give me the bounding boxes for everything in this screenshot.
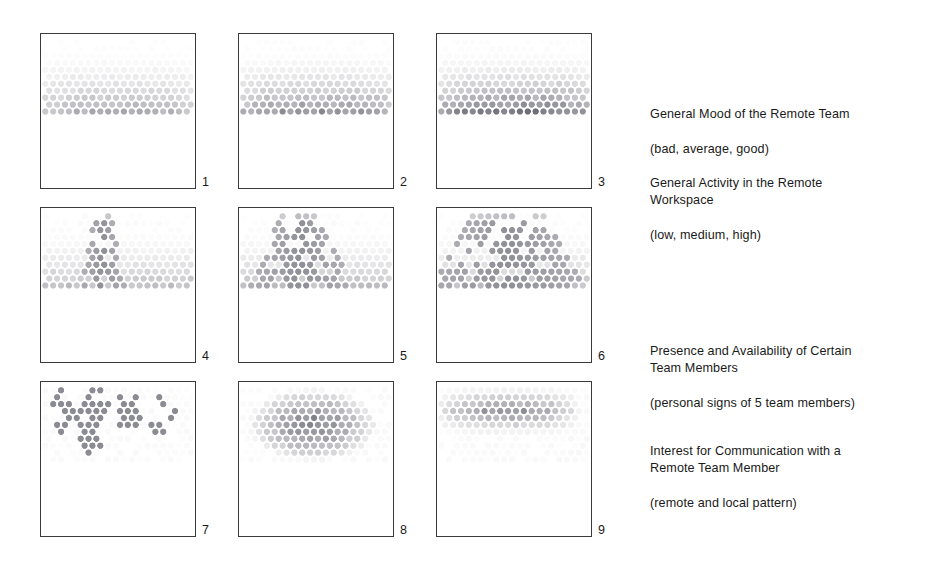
caption-presence: Presence and Availability of Certain Tea… [650,325,855,430]
panel-9 [436,381,592,537]
hex-dot-grid-1 [41,34,195,188]
panel-1 [40,33,196,189]
panel-2 [238,33,394,189]
panel-number-7: 7 [202,524,209,537]
panel-number-3: 3 [598,176,605,189]
hex-dot-grid-5 [239,208,393,362]
figure-container: 1 2 3 4 5 6 7 8 9 General Mood of the Re… [0,0,925,564]
panel-4 [40,207,196,363]
panel-5 [238,207,394,363]
hex-dot-grid-9 [437,382,591,536]
panel-number-6: 6 [598,350,605,363]
panel-number-5: 5 [400,350,407,363]
panel-8 [238,381,394,537]
caption-activity-subtitle: (low, medium, high) [650,227,822,245]
caption-activity: General Activity in the Remote Workspace… [650,157,822,262]
panel-number-2: 2 [400,176,407,189]
panel-number-1: 1 [202,176,209,189]
caption-interest-title: Interest for Communication with a Remote… [650,443,841,478]
caption-mood-subtitle: (bad, average, good) [650,141,850,159]
panel-3 [436,33,592,189]
caption-presence-title: Presence and Availability of Certain Tea… [650,343,855,378]
panel-7 [40,381,196,537]
hex-dot-grid-6 [437,208,591,362]
hex-dot-grid-2 [239,34,393,188]
caption-presence-subtitle: (personal signs of 5 team members) [650,395,855,413]
panel-number-8: 8 [400,524,407,537]
hex-dot-grid-8 [239,382,393,536]
hex-dot-grid-4 [41,208,195,362]
caption-mood-title: General Mood of the Remote Team [650,106,850,124]
caption-interest: Interest for Communication with a Remote… [650,425,841,530]
hex-dot-grid-7 [41,382,195,536]
panel-6 [436,207,592,363]
caption-interest-subtitle: (remote and local pattern) [650,495,841,513]
hex-dot-grid-3 [437,34,591,188]
panel-number-9: 9 [598,524,605,537]
caption-activity-title: General Activity in the Remote Workspace [650,175,822,210]
panel-number-4: 4 [202,350,209,363]
